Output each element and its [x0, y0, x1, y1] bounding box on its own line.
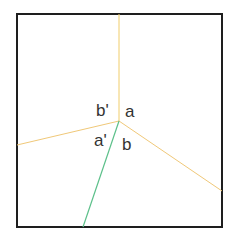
- label-a-prime: a': [94, 131, 107, 150]
- edge-right-line: [119, 121, 222, 191]
- label-a: a: [125, 102, 135, 121]
- diagram-canvas: b' a a' b: [0, 0, 238, 238]
- label-b-prime: b': [96, 101, 109, 120]
- label-b: b: [122, 135, 131, 154]
